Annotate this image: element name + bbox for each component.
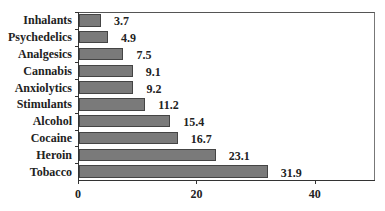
x-tick-label: 0	[75, 187, 81, 202]
bar	[79, 165, 268, 178]
x-tick	[315, 180, 316, 184]
bar	[79, 132, 178, 145]
bar	[79, 115, 170, 128]
y-tick	[75, 79, 78, 80]
category-label: Anxiolytics	[15, 82, 72, 94]
value-label: 16.7	[191, 133, 212, 145]
value-label: 23.1	[229, 150, 250, 162]
y-tick	[75, 130, 78, 131]
x-tick-label: 20	[190, 187, 202, 202]
y-tick	[75, 46, 78, 47]
y-tick	[75, 163, 78, 164]
y-tick	[75, 113, 78, 114]
value-label: 9.2	[146, 83, 161, 95]
category-label: Heroin	[36, 149, 72, 161]
value-label: 9.1	[146, 66, 161, 78]
category-label: Cannabis	[23, 65, 72, 77]
x-tick	[196, 180, 197, 184]
horizontal-bar-chart: Inhalants3.7Psychedelics4.9Analgesics7.5…	[0, 0, 385, 211]
category-label: Analgesics	[18, 48, 72, 60]
value-label: 11.2	[158, 99, 178, 111]
bar	[79, 31, 108, 44]
y-tick	[75, 12, 78, 13]
bar	[79, 14, 101, 27]
y-tick	[75, 29, 78, 30]
y-tick	[75, 62, 78, 63]
y-tick	[75, 146, 78, 147]
value-label: 7.5	[136, 49, 151, 61]
x-tick-label: 40	[309, 187, 321, 202]
value-label: 15.4	[183, 116, 204, 128]
bar	[79, 48, 123, 61]
category-label: Stimulants	[17, 98, 72, 110]
category-label: Inhalants	[23, 14, 72, 26]
bar	[79, 65, 133, 78]
value-label: 31.9	[281, 167, 302, 179]
x-tick	[78, 180, 79, 184]
value-label: 4.9	[121, 32, 136, 44]
bar	[79, 98, 145, 111]
bar	[79, 149, 216, 162]
category-label: Tobacco	[30, 166, 72, 178]
category-label: Cocaine	[31, 132, 72, 144]
value-label: 3.7	[114, 15, 129, 27]
y-tick	[75, 96, 78, 97]
x-axis	[78, 180, 375, 181]
category-label: Psychedelics	[8, 31, 72, 43]
category-label: Alcohol	[33, 115, 72, 127]
bar	[79, 81, 133, 94]
